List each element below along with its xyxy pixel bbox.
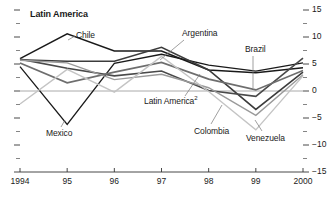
x-tick-label: 2000	[294, 176, 313, 186]
chart-container: Latin America Chile Mexico Argentina Bra…	[0, 0, 331, 200]
series-label-brazil: Brazil	[245, 44, 266, 54]
x-tick-label: 95	[62, 176, 71, 186]
series-line-latin-america	[20, 62, 303, 90]
series-label-argentina: Argentina	[182, 28, 218, 38]
series-label-mexico: Mexico	[46, 128, 72, 138]
x-tick-label: 96	[110, 176, 119, 186]
y-tick-label: −15	[312, 166, 326, 176]
y-tick-label: −10	[312, 139, 326, 149]
y-tick-label: 5	[312, 58, 317, 68]
leader-line-layer	[61, 36, 262, 131]
series-label-venezuela: Venezuela	[246, 133, 285, 143]
series-label-latin-america-footnote: 2	[194, 95, 197, 101]
x-tick-label: 1994	[11, 176, 30, 186]
series-label-latin-america-text: Latin America	[144, 96, 194, 106]
y-tick-label: 10	[312, 31, 321, 41]
series-label-chile: Chile	[76, 30, 95, 40]
chart-title: Latin America	[30, 9, 88, 19]
y-tick-label: 15	[312, 4, 321, 14]
y-tick-label: 0	[312, 85, 317, 95]
x-tick-label: 99	[251, 176, 260, 186]
x-tick-label: 98	[204, 176, 213, 186]
series-label-latin-america: Latin America2	[144, 96, 197, 106]
leader-line-colombia	[211, 105, 222, 124]
y-tick-label: −5	[312, 112, 322, 122]
leader-line-chile	[68, 36, 75, 40]
leader-line-mexico	[61, 120, 65, 127]
x-tick-label: 97	[157, 176, 166, 186]
series-label-colombia: Colombia	[194, 126, 229, 136]
series-line-mexico	[20, 54, 303, 124]
